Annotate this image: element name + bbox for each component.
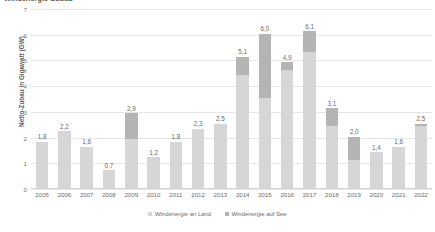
x-axis-tick-label: 2011 (165, 191, 187, 198)
stacked-bar[interactable] (58, 131, 70, 188)
stacked-bar[interactable] (80, 147, 92, 188)
bar-value-label: 1,2 (142, 149, 164, 156)
bar-segment-onshore[interactable] (147, 157, 159, 188)
bar-value-label: 2,5 (209, 115, 231, 122)
legend-swatch-icon (148, 212, 152, 216)
stacked-bar[interactable] (214, 124, 226, 188)
bar-segment-onshore[interactable] (80, 147, 92, 188)
bar-slot[interactable]: 1,2 (142, 9, 164, 188)
stacked-bar[interactable] (370, 152, 382, 188)
bar-segment-onshore[interactable] (415, 126, 427, 188)
bar-segment-onshore[interactable] (58, 131, 70, 188)
bar-segment-onshore[interactable] (125, 139, 137, 188)
bar-segment-offshore[interactable] (281, 62, 293, 70)
stacked-bar[interactable] (236, 57, 248, 188)
bar-segment-onshore[interactable] (170, 142, 182, 188)
stacked-bar[interactable] (348, 137, 360, 188)
bar-value-label: 1,6 (388, 138, 410, 145)
y-axis-tick-label: 7 (24, 6, 27, 13)
stacked-bar[interactable] (281, 62, 293, 188)
x-axis-tick-label: 2013 (209, 191, 231, 198)
bar-segment-offshore[interactable] (259, 34, 271, 98)
bar-value-label: 1,6 (76, 138, 98, 145)
bar-slot[interactable]: 0,7 (98, 9, 120, 188)
x-axis-tick-label: 2014 (232, 191, 254, 198)
legend-swatch-icon (225, 212, 229, 216)
legend-item[interactable]: Windenergie auf See (225, 211, 287, 217)
stacked-bar[interactable] (36, 142, 48, 188)
bar-slot[interactable]: 6,0 (254, 9, 276, 188)
bar-segment-onshore[interactable] (326, 126, 338, 188)
bar-slot[interactable]: 1,8 (31, 9, 53, 188)
bar-segment-offshore[interactable] (326, 108, 338, 126)
bar-slot[interactable]: 2,3 (187, 9, 209, 188)
x-axis-tick-label: 2018 (321, 191, 343, 198)
bar-value-label: 2,5 (410, 115, 432, 122)
stacked-bar[interactable] (192, 129, 204, 188)
bar-segment-onshore[interactable] (392, 147, 404, 188)
bar-segment-offshore[interactable] (125, 113, 137, 139)
bar-value-label: 6,1 (298, 23, 320, 30)
bar-series-container: 1,82,21,60,72,91,21,82,32,55,16,04,96,13… (31, 9, 432, 188)
bar-segment-onshore[interactable] (348, 160, 360, 188)
stacked-bar[interactable] (170, 142, 182, 188)
legend-label: Windenergie auf See (232, 211, 287, 217)
stacked-bar[interactable] (303, 31, 315, 188)
bar-slot[interactable]: 2,5 (410, 9, 432, 188)
x-axis-tick-label: 2006 (53, 191, 75, 198)
stacked-bar[interactable] (259, 34, 271, 188)
chart-title: Windenergie-Zubau (4, 0, 73, 3)
bar-segment-onshore[interactable] (103, 170, 115, 188)
bar-segment-onshore[interactable] (259, 98, 271, 188)
bar-segment-onshore[interactable] (214, 124, 226, 188)
bar-slot[interactable]: 1,6 (388, 9, 410, 188)
x-axis-tick-label: 2021 (388, 191, 410, 198)
bar-value-label: 4,9 (276, 54, 298, 61)
grid-line (31, 189, 432, 190)
plot-area: 01234567 1,82,21,60,72,91,21,82,32,55,16… (31, 9, 432, 189)
bar-slot[interactable]: 6,1 (298, 9, 320, 188)
bar-slot[interactable]: 5,1 (232, 9, 254, 188)
bar-value-label: 1,8 (31, 133, 53, 140)
bar-slot[interactable]: 2,5 (209, 9, 231, 188)
stacked-bar[interactable] (392, 147, 404, 188)
bar-slot[interactable]: 1,4 (365, 9, 387, 188)
bar-slot[interactable]: 2,2 (53, 9, 75, 188)
bar-segment-onshore[interactable] (36, 142, 48, 188)
bar-segment-offshore[interactable] (348, 137, 360, 160)
x-axis-tick-label: 2009 (120, 191, 142, 198)
bar-segment-offshore[interactable] (303, 31, 315, 52)
y-axis-tick-label: 6 (24, 31, 27, 38)
x-axis-tick-label: 2012 (187, 191, 209, 198)
bar-segment-onshore[interactable] (236, 75, 248, 188)
bar-slot[interactable]: 1,8 (165, 9, 187, 188)
stacked-bar[interactable] (125, 113, 137, 188)
bar-value-label: 5,1 (232, 48, 254, 55)
x-axis-tick-label: 2016 (276, 191, 298, 198)
legend-item[interactable]: Windenergie an Land (148, 211, 211, 217)
bar-slot[interactable]: 2,0 (343, 9, 365, 188)
y-axis-tick-label: 3 (24, 108, 27, 115)
chart-legend: Windenergie an LandWindenergie auf See (0, 211, 435, 217)
x-axis-tick-label: 2022 (410, 191, 432, 198)
bar-slot[interactable]: 2,9 (120, 9, 142, 188)
bar-slot[interactable]: 1,6 (76, 9, 98, 188)
bar-segment-onshore[interactable] (281, 70, 293, 188)
x-axis-tick-label: 2010 (142, 191, 164, 198)
bar-slot[interactable]: 3,1 (321, 9, 343, 188)
x-axis-tick-label: 2015 (254, 191, 276, 198)
stacked-bar[interactable] (415, 124, 427, 188)
bar-segment-onshore[interactable] (192, 129, 204, 188)
y-axis-tick-label: 4 (24, 83, 27, 90)
stacked-bar[interactable] (326, 108, 338, 188)
bar-segment-offshore[interactable] (236, 57, 248, 75)
y-axis-tick-label: 0 (24, 186, 27, 193)
bar-segment-onshore[interactable] (303, 52, 315, 188)
bar-value-label: 2,0 (343, 128, 365, 135)
bar-segment-onshore[interactable] (370, 152, 382, 188)
legend-label: Windenergie an Land (155, 211, 211, 217)
stacked-bar[interactable] (103, 170, 115, 188)
x-axis-tick-label: 2005 (31, 191, 53, 198)
stacked-bar[interactable] (147, 157, 159, 188)
bar-slot[interactable]: 4,9 (276, 9, 298, 188)
